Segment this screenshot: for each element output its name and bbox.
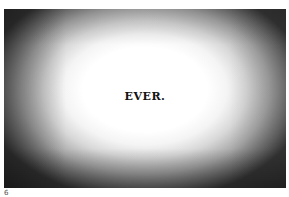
headline-text: EVER. [4,90,286,103]
page-number: 6 [4,189,8,197]
vignette-image: EVER. [4,9,286,188]
document-page: EVER. 6 [0,0,289,197]
